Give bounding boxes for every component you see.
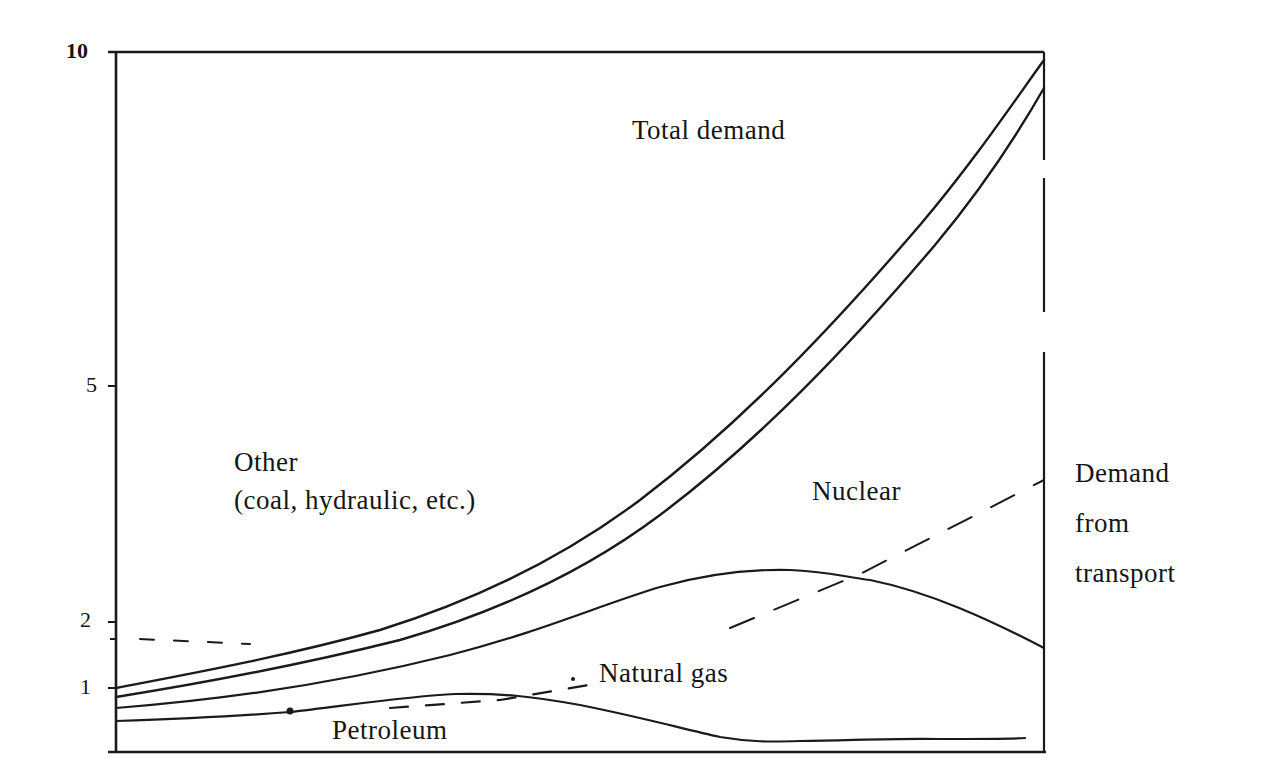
y-label-10: 10 [66, 38, 88, 64]
label-transport-2: from [1075, 505, 1129, 542]
label-petroleum: Petroleum [332, 712, 447, 749]
plot-frame [108, 52, 1046, 752]
nuclear-upper-curve [116, 88, 1044, 697]
y-label-1: 1 [80, 674, 91, 700]
label-transport-1: Demand [1075, 455, 1169, 492]
label-other-detail: (coal, hydraulic, etc.) [234, 482, 476, 519]
curve-dot [287, 708, 294, 715]
petroleum-curve [116, 694, 1025, 742]
total-demand-curve [116, 60, 1044, 688]
y-label-5: 5 [86, 372, 97, 398]
label-total-demand: Total demand [632, 112, 785, 149]
transport-dashed-line [140, 639, 250, 644]
label-natural-gas: Natural gas [599, 655, 728, 692]
label-other: Other [234, 444, 298, 481]
label-transport-3: transport [1075, 555, 1175, 592]
y-label-2: 2 [80, 607, 91, 633]
label-nuclear: Nuclear [812, 473, 901, 510]
